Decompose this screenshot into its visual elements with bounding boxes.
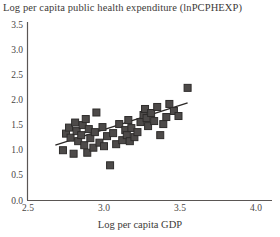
y-tick-label: 2.0 — [1, 95, 23, 105]
data-point — [67, 134, 74, 141]
chart-figure: Log per capita public health expenditure… — [0, 0, 280, 237]
y-tick-label: 0.5 — [1, 170, 23, 180]
data-point — [82, 116, 89, 123]
data-point — [134, 129, 141, 136]
data-points — [59, 84, 191, 168]
scatter-plot — [0, 0, 280, 237]
y-tick-label: 1.5 — [1, 120, 23, 130]
data-point — [125, 117, 132, 124]
x-tick-label: 2.5 — [13, 203, 43, 213]
y-tick-label: 1.0 — [1, 145, 23, 155]
x-tick-label: 4.0 — [241, 203, 271, 213]
x-tick-label: 3.5 — [165, 203, 195, 213]
y-tick-label: 2.5 — [1, 70, 23, 80]
data-point — [110, 130, 117, 137]
data-point — [157, 132, 164, 139]
data-point — [101, 143, 108, 150]
x-axis-label: Log per capita GDP — [0, 219, 280, 231]
data-point — [154, 103, 161, 110]
y-tick-label: 3.0 — [1, 45, 23, 55]
data-point — [70, 150, 77, 157]
data-point — [160, 121, 167, 128]
data-point — [91, 129, 98, 136]
data-point — [72, 119, 79, 126]
data-point — [166, 100, 173, 107]
data-point — [78, 132, 85, 139]
data-point — [151, 118, 158, 125]
x-tick-label: 3.0 — [89, 203, 119, 213]
data-point — [175, 113, 182, 120]
data-point — [93, 109, 100, 116]
y-tick-label: 3.5 — [1, 20, 23, 30]
data-point — [107, 162, 114, 169]
data-point — [163, 114, 170, 121]
data-point — [184, 84, 191, 91]
data-point — [81, 142, 88, 149]
data-point — [99, 124, 106, 131]
data-point — [59, 147, 66, 154]
